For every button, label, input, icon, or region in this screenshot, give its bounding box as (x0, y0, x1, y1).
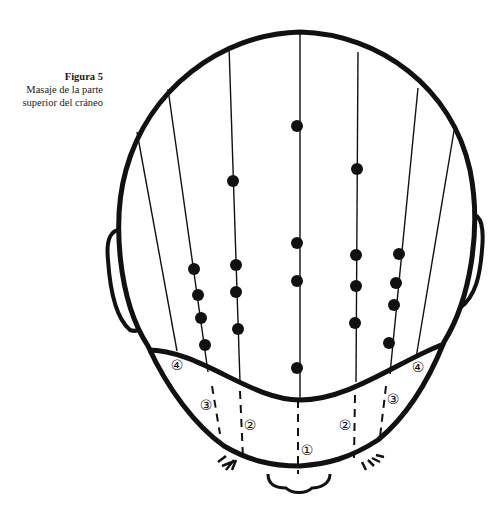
pressure-point (230, 259, 242, 271)
pressure-point (350, 280, 362, 292)
pressure-point (199, 339, 211, 351)
zone-label: ② (339, 417, 352, 433)
pressure-point (230, 286, 242, 298)
zone-label: ② (244, 417, 257, 433)
pressure-point (383, 337, 395, 349)
pressure-point (188, 263, 200, 275)
pressure-point (232, 323, 244, 335)
zone-label: ③ (200, 397, 213, 413)
zone-label: ④ (412, 359, 425, 375)
pressure-point (350, 249, 362, 261)
pressure-point (291, 362, 303, 374)
pressure-point (349, 317, 361, 329)
pressure-point (227, 175, 239, 187)
nape-bump (268, 474, 330, 493)
zone-label: ③ (387, 391, 400, 407)
pressure-point (388, 299, 400, 311)
zone-label: ④ (171, 357, 184, 373)
pressure-point (291, 120, 303, 132)
pressure-point (291, 275, 303, 287)
pressure-point (195, 312, 207, 324)
head-massage-diagram: ①②②③③④④ (0, 0, 504, 516)
zone-label: ① (301, 442, 314, 458)
pressure-point (351, 163, 363, 175)
pressure-point (390, 277, 402, 289)
pressure-point (393, 248, 405, 260)
pressure-point (192, 289, 204, 301)
pressure-point (291, 237, 303, 249)
